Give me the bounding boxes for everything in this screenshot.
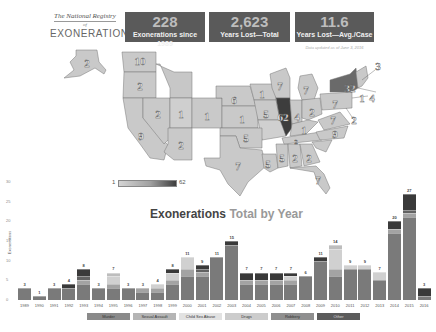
bar-value-label: 9	[196, 259, 209, 264]
x-tick: 2009	[313, 303, 328, 308]
bar-1989[interactable]	[18, 288, 31, 300]
y-tick: 0	[6, 297, 8, 302]
x-tick: 1990	[32, 303, 47, 308]
bar-1995[interactable]	[107, 272, 120, 300]
bar-2000[interactable]	[181, 257, 194, 300]
bar-2006[interactable]	[270, 272, 283, 300]
bar-1998[interactable]	[151, 284, 164, 300]
bar-segment-murder	[388, 233, 401, 300]
x-tick: 2014	[387, 303, 402, 308]
stat-value: 2,623	[209, 13, 290, 30]
map-label-ct: 1	[359, 92, 365, 104]
map-label-ma: 3	[375, 60, 381, 72]
x-tick: 2012	[357, 303, 372, 308]
bar-1997[interactable]	[136, 288, 149, 300]
y-tick: 20	[6, 218, 10, 223]
bar-2003[interactable]	[225, 241, 238, 300]
bar-segment-murder	[329, 276, 342, 300]
bar-segment-murder	[181, 276, 194, 300]
map-label-mi: 7	[303, 84, 309, 96]
bar-value-label: 27	[403, 188, 416, 193]
bar-value-label: 20	[388, 215, 401, 220]
bar-segment-murder	[284, 284, 297, 300]
bar-segment-murder	[403, 217, 416, 300]
bar-2011[interactable]	[344, 265, 357, 300]
bar-segment-murder	[92, 288, 105, 300]
bar-segment-child-sex-abuse	[107, 276, 120, 284]
bar-value-label: 7	[284, 266, 297, 271]
legend-item-other[interactable]: Other	[317, 313, 360, 320]
map-label-ca: 9	[138, 130, 144, 142]
bar-value-label: 3	[136, 282, 149, 287]
bar-value-label: 7	[107, 266, 120, 271]
bar-1994[interactable]	[92, 288, 105, 300]
map-label-va: 7	[330, 114, 336, 126]
bar-segment-child-sex-abuse	[166, 273, 179, 281]
x-tick: 2004	[239, 303, 254, 308]
map-label-id: 1	[178, 108, 184, 120]
legend-item-murder[interactable]: Murder	[87, 313, 130, 320]
bar-1991[interactable]	[48, 288, 61, 300]
bar-2010[interactable]	[329, 245, 342, 300]
bar-segment-sexual-assault	[329, 269, 342, 277]
logo-line-3: EXONERATIONS	[50, 28, 120, 39]
bar-1992[interactable]	[62, 284, 75, 300]
bar-value-label: 11	[210, 251, 223, 256]
map-label-co: 1	[204, 110, 210, 122]
y-tick: 25	[6, 199, 10, 204]
state-id[interactable]	[156, 64, 192, 98]
bar-value-label: 7	[373, 266, 386, 271]
bar-2004[interactable]	[240, 272, 253, 300]
legend-item-child-sex-abuse[interactable]: Child Sex Abuse	[179, 313, 222, 320]
stat-label: Exonerations since 1989	[125, 30, 205, 48]
bar-1996[interactable]	[122, 288, 135, 300]
bar-segment-murder	[33, 296, 46, 300]
bar-2016[interactable]	[418, 288, 431, 300]
bar-2002[interactable]	[210, 257, 223, 300]
legend-item-sexual-assault[interactable]: Sexual Assault	[133, 313, 176, 320]
map-label-ks: 1	[239, 113, 245, 125]
map-label-ne: 6	[231, 94, 237, 106]
bar-2014[interactable]	[388, 221, 401, 300]
logo-line-2: of	[54, 21, 116, 27]
bar-2008[interactable]	[299, 276, 312, 300]
x-tick: 2013	[372, 303, 387, 308]
bar-value-label: 8	[77, 263, 90, 268]
x-tick: 1994	[91, 303, 106, 308]
bar-segment-murder	[210, 257, 223, 300]
bar-segment-murder	[136, 292, 149, 300]
legend-item-drugs[interactable]: Drugs	[225, 313, 268, 320]
bar-segment-other	[255, 273, 268, 281]
map-label-or: 2	[137, 80, 143, 92]
bar-2012[interactable]	[358, 265, 371, 300]
y-tick: 15	[6, 238, 10, 243]
bar-segment-murder	[48, 288, 61, 300]
bar-segment-murder	[344, 269, 357, 300]
legend-item-robbery[interactable]: Robbery	[271, 313, 314, 320]
bar-value-label: 11	[181, 251, 194, 256]
map-label-il: 62	[278, 111, 290, 123]
map-label-ok: 5	[243, 132, 249, 144]
bar-1990[interactable]	[33, 296, 46, 300]
bar-segment-other	[388, 221, 401, 229]
bar-1999[interactable]	[166, 269, 179, 300]
bar-segment-murder	[373, 280, 386, 300]
bar-2009[interactable]	[314, 257, 327, 300]
bar-segment-murder	[62, 288, 75, 300]
bar-2015[interactable]	[403, 194, 416, 300]
map-label-tx: 7	[235, 160, 241, 172]
x-tick: 1997	[135, 303, 150, 308]
bar-segment-other	[270, 273, 283, 281]
bar-2005[interactable]	[255, 272, 268, 300]
map-label-az: 2	[178, 139, 184, 151]
bar-segment-other	[403, 194, 416, 210]
stat-exonerations: 228 Exonerations since 1989	[125, 12, 205, 42]
bar-1993[interactable]	[77, 269, 90, 300]
us-choropleth-map[interactable]: 2 10 2 9 2 1 2 1 6 1 1 5 5 7 5 5 2 2 7 7…	[0, 48, 436, 198]
bar-2001[interactable]	[196, 265, 209, 300]
map-label-wi: 7	[277, 80, 283, 92]
bar-2013[interactable]	[373, 272, 386, 300]
bar-segment-murder	[77, 284, 90, 300]
stat-years-lost-avg: 11.6 Years Lost—Avg./Case	[295, 12, 374, 42]
bar-2007[interactable]	[284, 272, 297, 300]
